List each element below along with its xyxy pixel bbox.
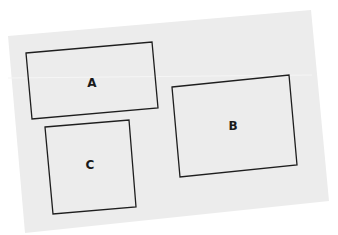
paper-sheet bbox=[8, 10, 329, 233]
rectangle-c-label: C bbox=[86, 158, 95, 172]
rectangle-b-label: B bbox=[228, 119, 237, 133]
rectangle-a-label: A bbox=[87, 76, 97, 90]
diagram-canvas: A B C bbox=[0, 0, 338, 235]
